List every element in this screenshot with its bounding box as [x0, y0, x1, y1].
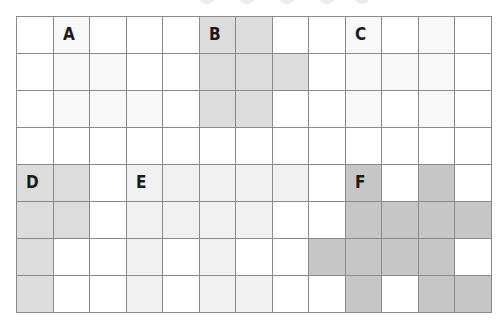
grid-cell	[200, 54, 237, 91]
grid-cell	[273, 165, 310, 202]
grid-cell	[90, 54, 127, 91]
grid-cell	[455, 128, 492, 165]
grid-cell	[200, 128, 237, 165]
grid-cell	[455, 239, 492, 276]
grid-cell	[273, 239, 310, 276]
grid-cell	[236, 165, 273, 202]
grid-cell	[382, 239, 419, 276]
grid-cell	[309, 276, 346, 313]
grid-cell	[54, 91, 91, 128]
region-label: F	[355, 171, 365, 192]
grid-cell	[127, 202, 164, 239]
grid-cell	[200, 239, 237, 276]
grid-cell	[127, 91, 164, 128]
grid-cell	[419, 239, 456, 276]
grid-cell	[419, 128, 456, 165]
region-label: A	[63, 23, 75, 44]
grid-cell	[54, 202, 91, 239]
grid-cell	[54, 128, 91, 165]
grid-cell	[236, 17, 273, 54]
grid-cell	[346, 91, 383, 128]
region-label: D	[26, 171, 39, 192]
grid-cell	[455, 165, 492, 202]
grid-cell	[236, 91, 273, 128]
grid-cell	[419, 91, 456, 128]
grid-cell	[200, 165, 237, 202]
grid-cell	[273, 54, 310, 91]
grid-cell	[273, 128, 310, 165]
grid-cell	[163, 202, 200, 239]
grid-cell	[273, 202, 310, 239]
grid-cell	[17, 17, 54, 54]
grid-cell: F	[346, 165, 383, 202]
grid-cell	[309, 165, 346, 202]
grid-cell	[382, 202, 419, 239]
grid-cell	[54, 276, 91, 313]
grid-cell	[127, 239, 164, 276]
grid-cell	[309, 202, 346, 239]
grid-cell	[90, 17, 127, 54]
region-grid: ABCDEF	[16, 16, 492, 313]
grid-cell	[309, 17, 346, 54]
grid-cell	[127, 276, 164, 313]
grid-cell	[419, 54, 456, 91]
grid-cell	[382, 276, 419, 313]
grid-cell	[90, 128, 127, 165]
region-label: B	[209, 23, 221, 44]
grid-cell	[309, 91, 346, 128]
grid-cell	[419, 276, 456, 313]
grid-cell	[54, 54, 91, 91]
grid-cell	[90, 239, 127, 276]
grid-cell	[273, 17, 310, 54]
grid-cell: A	[54, 17, 91, 54]
grid-cell	[382, 128, 419, 165]
grid-cell	[236, 54, 273, 91]
grid-cell	[17, 91, 54, 128]
grid-cell	[419, 202, 456, 239]
grid-cell	[346, 202, 383, 239]
grid-cell	[163, 239, 200, 276]
grid-cell	[90, 91, 127, 128]
grid-cell	[455, 54, 492, 91]
grid-cell	[54, 165, 91, 202]
grid-cell	[127, 17, 164, 54]
grid-cell	[309, 128, 346, 165]
grid-cell	[17, 128, 54, 165]
grid-cell	[236, 239, 273, 276]
grid-cell	[163, 91, 200, 128]
cropped-top-marks	[190, 0, 390, 6]
grid-cell	[455, 202, 492, 239]
grid-cell	[90, 202, 127, 239]
grid-cell: D	[17, 165, 54, 202]
region-label: E	[136, 171, 146, 192]
grid-cell	[90, 165, 127, 202]
grid-cell	[382, 54, 419, 91]
region-label: C	[355, 23, 366, 44]
grid-cell	[309, 54, 346, 91]
grid-cell	[163, 17, 200, 54]
grid-cell	[17, 239, 54, 276]
grid-cell	[17, 276, 54, 313]
grid-cell	[273, 276, 310, 313]
grid-cell	[90, 276, 127, 313]
grid-cell	[163, 276, 200, 313]
grid-cell	[309, 239, 346, 276]
grid-cell	[382, 17, 419, 54]
grid-cell	[346, 54, 383, 91]
grid-cell	[419, 165, 456, 202]
grid-cell	[419, 17, 456, 54]
grid-cell	[127, 128, 164, 165]
grid-cell	[163, 128, 200, 165]
grid-cell	[236, 202, 273, 239]
grid-cell	[200, 202, 237, 239]
grid-cell	[346, 239, 383, 276]
grid-cell	[236, 128, 273, 165]
grid-cell	[200, 91, 237, 128]
grid-cell: E	[127, 165, 164, 202]
grid-cell	[17, 202, 54, 239]
grid-cell	[382, 165, 419, 202]
grid-cell	[382, 91, 419, 128]
grid-cell	[163, 54, 200, 91]
grid-cell	[455, 276, 492, 313]
grid-cell	[163, 165, 200, 202]
